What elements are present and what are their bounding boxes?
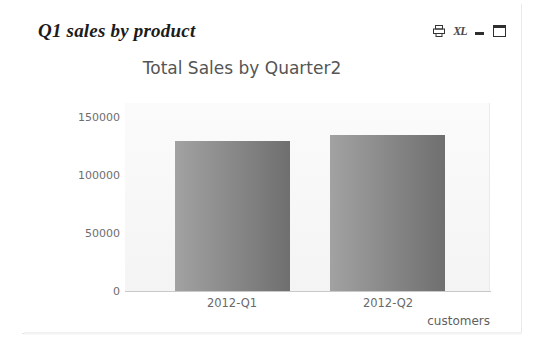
x-axis-label: customers — [22, 314, 490, 328]
screenshot-root: Q1 sales by product XL Total Sales by Qu… — [0, 0, 544, 358]
y-tick-label: 50000 — [85, 227, 120, 240]
print-icon[interactable] — [432, 24, 446, 38]
x-tick-label: 2012-Q2 — [363, 296, 413, 310]
x-tick-label: 2012-Q1 — [207, 296, 257, 310]
y-tick-label: 100000 — [78, 169, 120, 182]
bar-2012-q1[interactable] — [175, 141, 290, 291]
minimize-button[interactable] — [474, 24, 486, 38]
plot-wrapper: 0 50000 100000 150000 2012-Q1 2012-Q2 cu… — [22, 52, 522, 332]
bar-2012-q2[interactable] — [330, 135, 445, 291]
maximize-button[interactable] — [493, 25, 506, 37]
panel-bottom-border — [24, 332, 522, 335]
y-tick-label: 0 — [113, 285, 120, 298]
excel-export-icon[interactable]: XL — [453, 24, 467, 38]
y-tick-label: 150000 — [78, 111, 120, 124]
page-title: Q1 sales by product — [38, 20, 195, 42]
panel-titlebar: Q1 sales by product XL — [22, 20, 522, 50]
titlebar-controls: XL — [432, 24, 506, 38]
x-axis-line — [125, 291, 491, 292]
chart-container: Total Sales by Quarter2 0 50000 100000 1… — [22, 52, 522, 332]
